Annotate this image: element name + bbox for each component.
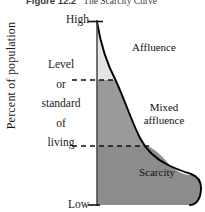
axis-word-standard: standard [30,94,92,114]
x-axis-title-stack: Level or standard of living [30,55,92,153]
axis-word-level: Level [30,55,92,75]
region-label-mixed-affluence: Mixed affluence [128,101,200,127]
axis-word-living: living [30,133,92,153]
y-axis-title: Percent of population [4,1,19,151]
axis-label-low: Low [33,198,89,210]
region-label-scarcity: Scarcity [124,166,190,179]
axis-word-or: or [30,75,92,95]
scarcity-curve-figure: Figure 12.2The Scarcity Curve Percent of… [0,0,205,212]
axis-word-of: of [30,114,92,134]
axis-label-high: High [33,13,89,25]
region-label-affluence: Affluence [112,41,196,54]
